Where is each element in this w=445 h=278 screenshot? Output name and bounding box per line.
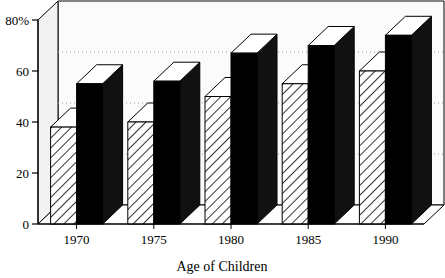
x-tick-label-1985: 1985	[295, 232, 321, 247]
y-tick-label: 80%	[5, 13, 29, 28]
bar-chart: 020406080%19701975198019851990 Age of Ch…	[0, 0, 445, 278]
x-axis-title: Age of Children	[177, 259, 268, 274]
x-tick-label-1990: 1990	[372, 232, 398, 247]
bar-solid-1970	[77, 65, 123, 224]
y-tick-label: 40	[16, 115, 29, 130]
x-tick-label-1975: 1975	[141, 232, 167, 247]
bar-solid-1975	[154, 62, 200, 224]
y-tick-label: 0	[23, 217, 30, 232]
x-tick-label-1970: 1970	[64, 232, 90, 247]
chart-canvas: 020406080%19701975198019851990 Age of Ch…	[0, 0, 445, 278]
y-tick-label: 20	[16, 166, 29, 181]
bar-solid-1985	[308, 27, 354, 225]
bar-solid-1980	[231, 34, 277, 224]
x-tick-label-1980: 1980	[218, 232, 244, 247]
bar-solid-1990	[385, 16, 431, 224]
y-tick-label: 60	[16, 64, 29, 79]
